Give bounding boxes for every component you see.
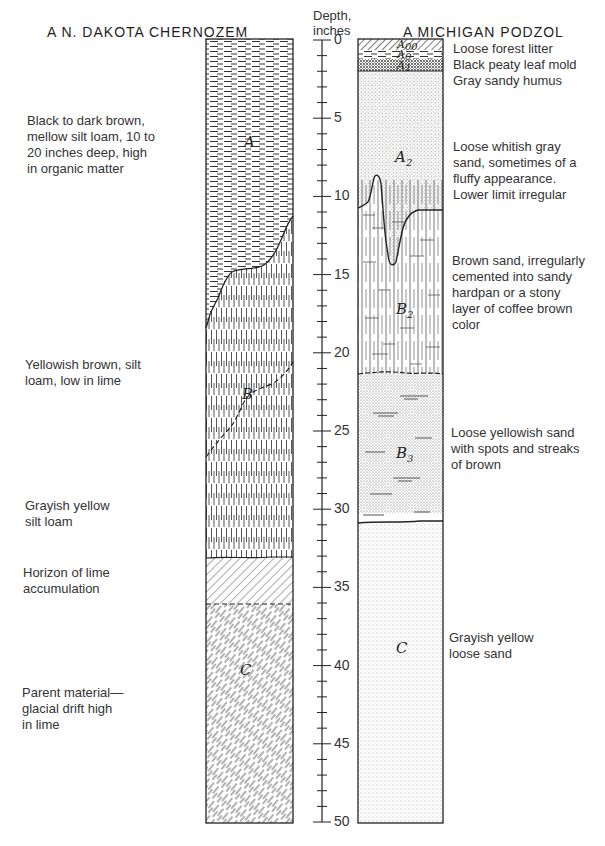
left-label-c: C [240, 661, 252, 679]
right-horizon-c [358, 523, 443, 823]
right-soil-column: A 00 A 0 A 1 A 2 B 2 B 3 C [358, 38, 443, 823]
right-label-b3: B [395, 444, 407, 462]
left-horizon-c [206, 604, 293, 823]
left-horizon-lime [206, 558, 293, 604]
left-soil-column: A B C [206, 39, 293, 823]
depth-scale [313, 40, 331, 822]
soil-profile-diagram: A B C [0, 0, 605, 846]
right-label-c: C [396, 639, 408, 657]
right-label-a2: A [393, 148, 406, 166]
right-label-a2-sub: 2 [405, 157, 412, 168]
right-boundary-b3-c [358, 521, 443, 523]
left-label-a: A [242, 133, 255, 151]
right-label-b2-sub: 2 [406, 309, 413, 320]
right-label-b3-sub: 3 [407, 453, 413, 464]
right-label-a1-sub: 1 [405, 62, 411, 73]
right-label-a1: A [396, 59, 405, 72]
right-label-a0-sub: 0 [405, 51, 412, 62]
right-label-b2: B [395, 300, 407, 318]
left-label-b: B [241, 385, 253, 403]
